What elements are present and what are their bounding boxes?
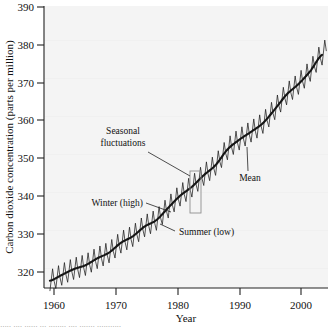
x-tick-label-1990: 1990 — [229, 299, 252, 311]
annotation-mean: Mean — [239, 173, 261, 183]
y-tick-label-350: 350 — [18, 152, 35, 164]
annotation-winter-high: Winter (high) — [91, 198, 143, 209]
y-tick-label-330: 330 — [18, 228, 35, 240]
y-tick-label-320: 320 — [18, 266, 35, 278]
y-tick-label-380: 380 — [18, 39, 35, 51]
x-tick-label-2000: 2000 — [290, 299, 313, 311]
x-tick-label-1970: 1970 — [105, 299, 128, 311]
x-tick-label-1980: 1980 — [167, 299, 190, 311]
y-tick-label-390: 390 — [18, 1, 35, 13]
co2-figure: 390 380 370 360 350 340 330 320 1960 197… — [0, 0, 328, 330]
y-ticks — [37, 7, 44, 272]
y-axis-title: Carbon dioxide concentration (parts per … — [3, 40, 16, 254]
y-tick-label-360: 360 — [18, 114, 35, 126]
y-tick-label-340: 340 — [18, 190, 35, 202]
y-tick-label-370: 370 — [18, 77, 35, 89]
page-caption-strip: ∙∙∙∙∙ ∙∙∙∙ ∙∙∙∙∙∙ ∙∙∙ ∙∙∙∙∙∙∙∙ ∙∙∙∙ ∙∙∙∙… — [0, 322, 328, 330]
co2-chart: 390 380 370 360 350 340 330 320 1960 197… — [0, 0, 328, 330]
x-tick-label-1960: 1960 — [43, 299, 66, 311]
x-ticks — [54, 288, 301, 295]
annotation-seasonal-line2: fluctuations — [101, 138, 146, 148]
plot-background — [44, 6, 328, 288]
annotation-summer-low: Summer (low) — [179, 227, 234, 238]
annotation-seasonal-line1: Seasonal — [106, 126, 140, 136]
